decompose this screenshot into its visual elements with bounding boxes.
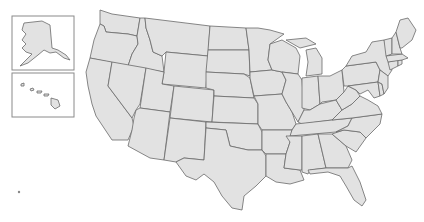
state-colorado[interactable] <box>170 86 214 122</box>
state-indiana[interactable] <box>302 76 320 110</box>
state-maine[interactable] <box>396 18 416 48</box>
marker-dot <box>18 191 20 193</box>
state-wyoming[interactable] <box>162 52 208 88</box>
state-iowa[interactable] <box>250 70 286 96</box>
hawaii-inset <box>12 73 74 117</box>
alaska-inset <box>12 16 74 70</box>
state-kansas[interactable] <box>212 96 258 124</box>
state-montana[interactable] <box>145 18 210 56</box>
contiguous-us <box>86 10 416 210</box>
state-arizona[interactable] <box>128 108 170 160</box>
state-new-mexico[interactable] <box>164 118 206 162</box>
state-north-dakota[interactable] <box>208 26 249 50</box>
us-map <box>0 0 424 222</box>
state-florida[interactable] <box>308 166 366 206</box>
state-rhode-island[interactable] <box>398 60 402 66</box>
